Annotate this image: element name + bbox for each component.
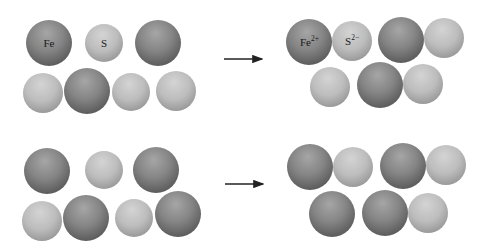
reaction-diagram: Fe S Fe2+ S2− bbox=[0, 0, 486, 251]
panel-top-reactants bbox=[23, 20, 196, 114]
sulfur-sphere bbox=[403, 64, 443, 104]
fe-atom-label: Fe bbox=[44, 37, 55, 49]
panel-top-products bbox=[286, 17, 464, 108]
sulfur-sphere bbox=[112, 73, 150, 111]
sulfur-sphere bbox=[333, 147, 373, 187]
fe-ion-charge: 2+ bbox=[311, 34, 319, 43]
sulfur-sphere bbox=[156, 71, 196, 111]
iron-sphere bbox=[287, 144, 333, 190]
arrows-layer bbox=[224, 59, 263, 184]
iron-sphere bbox=[362, 190, 408, 236]
sulfur-sphere bbox=[23, 73, 63, 113]
iron-sphere bbox=[378, 17, 424, 63]
s-ion-charge: 2− bbox=[351, 33, 359, 42]
fe-ion-symbol: Fe bbox=[300, 36, 311, 48]
iron-sphere bbox=[135, 20, 181, 66]
sulfur-sphere bbox=[85, 151, 123, 189]
s-atom-label: S bbox=[101, 37, 107, 49]
iron-sphere bbox=[64, 68, 110, 114]
sulfur-sphere bbox=[115, 199, 153, 237]
sulfur-sphere bbox=[424, 18, 464, 58]
sulfur-sphere bbox=[22, 201, 62, 241]
sulfur-sphere bbox=[426, 145, 466, 185]
iron-sphere bbox=[24, 148, 70, 194]
panels-layer bbox=[22, 17, 466, 241]
iron-sphere bbox=[357, 62, 403, 108]
iron-sphere bbox=[63, 195, 109, 241]
iron-sphere bbox=[155, 191, 201, 237]
panel-bottom-reactants bbox=[22, 147, 201, 241]
sulfur-sphere bbox=[408, 193, 448, 233]
iron-sphere bbox=[309, 191, 355, 237]
sulfur-sphere bbox=[310, 67, 350, 107]
iron-sphere bbox=[133, 147, 179, 193]
panel-bottom-products bbox=[287, 143, 466, 237]
iron-sphere bbox=[380, 143, 426, 189]
